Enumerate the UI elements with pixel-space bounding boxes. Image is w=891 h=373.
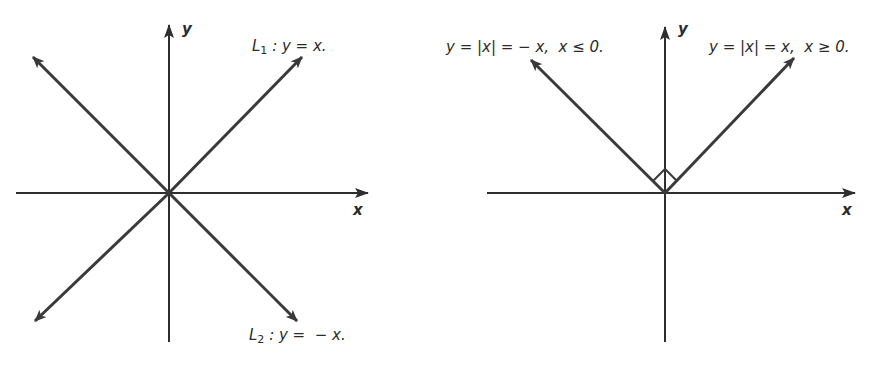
- l1-label: L1 : y = x.: [252, 39, 327, 56]
- abs-left-branch: [531, 60, 665, 193]
- line-l2-upper: [33, 57, 169, 193]
- right-y-axis-label: y: [678, 22, 688, 37]
- line-l2-lower: [169, 193, 297, 321]
- abs-right-branch: [665, 58, 794, 193]
- left-x-axis-label: x: [353, 203, 363, 218]
- left-figure: [16, 25, 368, 342]
- line-l1-upper: [169, 57, 302, 193]
- l2-label-rest: : y = − x.: [264, 326, 345, 344]
- right-x-axis-label: x: [842, 203, 852, 218]
- abs-left-branch-label: y = |x| = − x, x ≤ 0.: [446, 40, 604, 55]
- l2-label: L2 : y = − x.: [249, 328, 346, 345]
- line-l1-lower: [35, 193, 169, 321]
- left-y-axis-label: y: [182, 22, 192, 37]
- l1-label-rest: : y = x.: [267, 37, 326, 55]
- right-figure: [487, 27, 855, 342]
- abs-right-branch-label: y = |x| = x, x ≥ 0.: [709, 40, 850, 55]
